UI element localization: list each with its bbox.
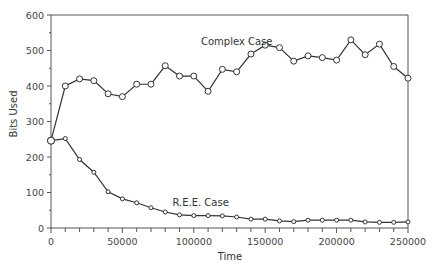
data-point-marker (376, 41, 382, 47)
data-point-marker (320, 218, 324, 222)
data-point-marker (392, 220, 396, 224)
data-point-marker (119, 94, 125, 100)
data-point-marker (292, 220, 296, 224)
data-point-marker (149, 206, 153, 210)
data-point-marker (234, 69, 240, 75)
data-point-marker (206, 214, 210, 218)
series-line (51, 40, 408, 141)
data-point-marker (405, 75, 411, 81)
y-tick-label: 400 (26, 81, 44, 92)
data-point-marker (48, 137, 55, 144)
data-point-marker (334, 57, 340, 63)
data-point-marker (163, 210, 167, 214)
data-point-marker (406, 220, 410, 224)
data-point-marker (178, 213, 182, 217)
data-point-marker (219, 66, 225, 72)
series-ree-case (48, 137, 411, 225)
data-point-marker (335, 218, 339, 222)
series-label-complex-case: Complex Case (201, 36, 273, 47)
data-point-marker (134, 81, 140, 87)
data-point-marker (291, 58, 297, 64)
data-point-marker (191, 73, 197, 79)
x-tick-label: 0 (48, 236, 54, 247)
data-point-marker (306, 218, 310, 222)
y-tick-label: 0 (38, 223, 44, 234)
data-point-marker (235, 215, 239, 219)
series-line (51, 139, 408, 223)
data-point-marker (205, 88, 211, 94)
data-point-marker (319, 55, 325, 61)
series-label-ree-case: R.E.E. Case (172, 197, 228, 208)
x-tick-label: 200000 (318, 236, 354, 247)
data-point-marker (62, 83, 68, 89)
y-tick-label: 300 (26, 116, 44, 127)
data-point-marker (391, 63, 397, 69)
data-point-marker (249, 217, 253, 221)
data-point-marker (220, 214, 224, 218)
x-tick-label: 50000 (107, 236, 137, 247)
data-point-marker (276, 45, 282, 51)
x-axis-title: Time (217, 251, 242, 262)
data-point-marker (305, 53, 311, 59)
data-point-marker (120, 197, 124, 201)
data-point-marker (192, 214, 196, 218)
data-point-marker (148, 81, 154, 87)
y-tick-label: 200 (26, 152, 44, 163)
y-axis-title: Bits Used (8, 91, 19, 138)
data-point-marker (106, 190, 110, 194)
data-point-marker (162, 63, 168, 69)
data-point-marker (91, 78, 97, 84)
y-tick-label: 100 (26, 187, 44, 198)
data-point-marker (349, 218, 353, 222)
data-point-marker (92, 170, 96, 174)
data-point-marker (248, 51, 254, 57)
data-point-marker (263, 217, 267, 221)
data-point-marker (135, 201, 139, 205)
data-point-marker (105, 91, 111, 97)
data-point-marker (78, 157, 82, 161)
line-chart: 0100200300400500600050000100000150000200… (0, 0, 436, 270)
data-point-marker (362, 52, 368, 58)
series-complex-case (48, 37, 412, 144)
data-point-marker (177, 73, 183, 79)
data-point-marker (277, 219, 281, 223)
data-point-marker (363, 220, 367, 224)
data-point-marker (63, 137, 67, 141)
x-tick-label: 250000 (390, 236, 426, 247)
data-point-marker (377, 220, 381, 224)
x-tick-label: 150000 (247, 236, 283, 247)
series-layer (48, 37, 412, 224)
data-point-marker (348, 37, 354, 43)
data-point-marker (77, 76, 83, 82)
y-tick-label: 500 (26, 45, 44, 56)
x-tick-label: 100000 (176, 236, 212, 247)
y-tick-label: 600 (26, 10, 44, 21)
